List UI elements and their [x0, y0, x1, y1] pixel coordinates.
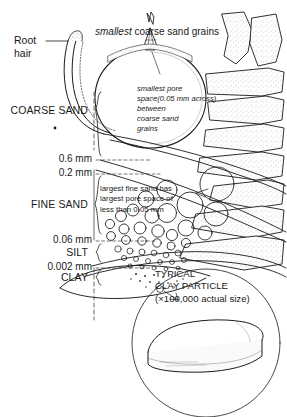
- coarse-note-line-2: space(0.05 mm across): [137, 94, 216, 104]
- fine-sand-note: largest fine sand has largest pore space…: [100, 184, 173, 215]
- fine-note-line-2: largest pore space of: [100, 194, 173, 204]
- root-hair-line-2: hair: [14, 47, 36, 60]
- coarse-note-line-3: between: [137, 104, 216, 114]
- size-label-0-06mm: 0.06 mm: [0, 234, 92, 246]
- root-hair-label: Root hair: [14, 34, 36, 60]
- inset-caption-line-1: TYPICAL: [155, 268, 250, 280]
- root-hair-line-1: Root: [14, 34, 36, 47]
- root-hair-shape: [64, 31, 116, 134]
- coarse-note-line-1: smallest pore: [137, 84, 216, 94]
- size-label-0-6mm: 0.6 mm: [0, 153, 92, 165]
- category-label-clay: CLAY: [0, 271, 88, 283]
- figure-title: smallest coarse sand grains: [95, 26, 219, 38]
- fine-note-line-1: largest fine sand has: [100, 184, 173, 194]
- size-label-0-002mm: 0.002 mm: [0, 261, 92, 273]
- inset-caption: TYPICAL CLAY PARTICLE (×100,000 actual s…: [155, 268, 250, 305]
- category-label-coarse-sand: COARSE SAND: [0, 104, 88, 116]
- pore-note-leader: [152, 52, 160, 74]
- category-label-silt: SILT: [0, 246, 88, 258]
- fine-note-line-3: less than 0.05 mm: [100, 205, 173, 215]
- title-rest: coarse sand grains: [132, 26, 219, 37]
- coarse-note-line-5: grains: [137, 124, 216, 134]
- soil-particle-size-diagram: smallest coarse sand grains Root hair sm…: [0, 0, 287, 417]
- category-label-fine-sand: FINE SAND: [0, 198, 88, 210]
- inset-caption-line-2: CLAY PARTICLE: [155, 280, 250, 292]
- coarse-sand-dot-marker: [54, 127, 57, 130]
- size-label-0-2mm: 0.2 mm: [0, 167, 92, 179]
- inset-caption-line-3: (×100,000 actual size): [155, 293, 250, 305]
- coarse-note-line-4: coarse sand: [137, 114, 216, 124]
- title-emphasis: smallest: [95, 26, 132, 37]
- soil-aggregates-right: [180, 12, 284, 270]
- coarse-pore-note: smallest pore space(0.05 mm across) betw…: [137, 84, 216, 134]
